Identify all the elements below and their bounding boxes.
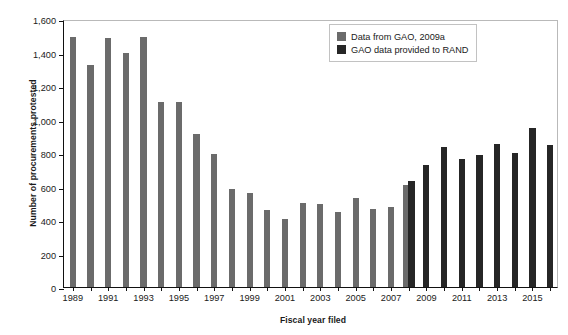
x-axis-tick (462, 287, 463, 291)
bar (370, 209, 376, 287)
x-axis-tick (232, 287, 233, 291)
x-axis-tick-label: 1991 (98, 293, 118, 303)
x-axis-tick-label: 1993 (133, 293, 153, 303)
bar (211, 154, 217, 287)
x-axis-tick (73, 287, 74, 291)
x-axis-tick-label: 2003 (310, 293, 330, 303)
x-axis-tick (320, 287, 321, 291)
legend-label: GAO data provided to RAND (351, 45, 468, 55)
x-axis-tick (515, 287, 516, 291)
x-axis-tick-label: 2015 (522, 293, 542, 303)
bar (229, 189, 235, 287)
x-axis-tick (267, 287, 268, 291)
legend-label: Data from GAO, 2009a (351, 32, 445, 42)
legend-swatch-icon (337, 32, 346, 41)
legend-swatch-icon (337, 45, 346, 54)
bar (176, 102, 182, 287)
bar (193, 134, 199, 287)
y-axis-tick (59, 21, 64, 22)
x-axis-tick (550, 287, 551, 291)
y-axis-title: Number of procurements protested (28, 28, 38, 278)
y-axis-tick-label: 1,600 (33, 16, 56, 26)
bar (282, 219, 288, 287)
y-axis-tick-label: 0 (51, 284, 56, 294)
x-axis-tick (303, 287, 304, 291)
bar (105, 38, 111, 287)
y-axis-tick (59, 256, 64, 257)
bar (388, 207, 394, 287)
bar (317, 204, 323, 287)
x-axis-tick-label: 2011 (452, 293, 472, 303)
x-axis-tick (532, 287, 533, 291)
y-axis-tick-label: 200 (41, 251, 56, 261)
legend-item: Data from GAO, 2009a (337, 30, 468, 43)
x-axis-tick-label: 1997 (204, 293, 224, 303)
bar (353, 198, 359, 287)
x-axis-tick-label: 1995 (169, 293, 189, 303)
bar-chart: Number of procurements protested 0200400… (0, 0, 568, 335)
y-axis-tick-label: 400 (41, 217, 56, 227)
y-axis-tick (59, 155, 64, 156)
bar (529, 128, 535, 287)
x-axis-tick-label: 2005 (345, 293, 365, 303)
x-axis-tick-label: 1999 (239, 293, 259, 303)
y-axis-tick (59, 289, 64, 290)
x-axis-tick (197, 287, 198, 291)
x-axis-tick (161, 287, 162, 291)
x-axis-tick (144, 287, 145, 291)
bar (408, 181, 414, 287)
bar (459, 159, 465, 287)
plot-area: 02004006008001,0001,2001,4001,6001989199… (63, 20, 558, 288)
x-axis-tick (409, 287, 410, 291)
x-axis-tick (108, 287, 109, 291)
legend-item: GAO data provided to RAND (337, 43, 468, 56)
y-axis-tick (59, 222, 64, 223)
x-axis-tick (479, 287, 480, 291)
x-axis-tick (391, 287, 392, 291)
x-axis-tick (285, 287, 286, 291)
x-axis-tick-label: 2009 (416, 293, 436, 303)
x-axis-tick (338, 287, 339, 291)
chart-legend: Data from GAO, 2009aGAO data provided to… (329, 24, 477, 62)
y-axis-tick-label: 1,400 (33, 50, 56, 60)
y-axis-tick (59, 88, 64, 89)
y-axis-tick-label: 600 (41, 184, 56, 194)
x-axis-tick-label: 2001 (275, 293, 295, 303)
y-axis-tick-label: 1,000 (33, 117, 56, 127)
x-axis-tick (356, 287, 357, 291)
bar (158, 102, 164, 287)
x-axis-title: Fiscal year filed (63, 315, 563, 325)
y-axis-tick (59, 189, 64, 190)
x-axis-tick (373, 287, 374, 291)
bar (494, 144, 500, 287)
x-axis-tick-label: 2007 (381, 293, 401, 303)
bar (300, 203, 306, 287)
bar (441, 147, 447, 287)
bar (335, 212, 341, 287)
x-axis-tick (250, 287, 251, 291)
x-axis-tick (426, 287, 427, 291)
bar (70, 37, 76, 287)
x-axis-tick (91, 287, 92, 291)
x-axis-tick-label: 2013 (487, 293, 507, 303)
bar (547, 145, 553, 287)
bar (87, 65, 93, 287)
bar (140, 37, 146, 287)
x-axis-tick (126, 287, 127, 291)
y-axis-tick-label: 1,200 (33, 83, 56, 93)
bar (247, 193, 253, 287)
x-axis-tick (214, 287, 215, 291)
bar (264, 210, 270, 287)
y-axis-tick-label: 800 (41, 150, 56, 160)
y-axis-tick (59, 122, 64, 123)
bar (123, 53, 129, 288)
x-axis-tick (179, 287, 180, 291)
x-axis-tick (444, 287, 445, 291)
x-axis-tick (497, 287, 498, 291)
x-axis-tick-label: 1989 (63, 293, 83, 303)
bar (423, 165, 429, 287)
bar (512, 153, 518, 287)
bar (476, 155, 482, 287)
y-axis-tick (59, 55, 64, 56)
